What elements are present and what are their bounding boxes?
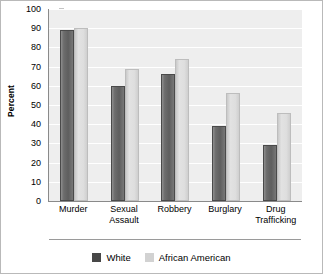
bar — [125, 69, 139, 201]
y-axis-label-text: Percent — [6, 85, 16, 117]
bar-group — [263, 9, 291, 201]
y-axis-tick-label: 80 — [31, 42, 41, 52]
bar-groups — [49, 9, 302, 201]
x-axis-tick-label: Sexual Assault — [99, 204, 149, 234]
bar-chart-figure: Percent 1009080706050403020100 MurderSex… — [0, 0, 323, 274]
legend-item[interactable]: White — [92, 252, 130, 263]
y-axis-tick-label: 60 — [31, 81, 41, 91]
y-axis-tick-label: 50 — [31, 100, 41, 110]
bar-group — [60, 9, 88, 201]
legend-label: White — [106, 252, 130, 263]
bar — [226, 93, 240, 201]
x-axis-tick-labels: MurderSexual AssaultRobberyBurglaryDrug … — [48, 204, 301, 234]
x-axis-tick-label: Drug Trafficking — [251, 204, 301, 234]
bar — [60, 30, 74, 201]
bar — [175, 59, 189, 201]
y-axis-tick-label: 70 — [31, 62, 41, 72]
legend-swatch-icon — [145, 253, 154, 262]
legend-swatch-icon — [92, 253, 101, 262]
legend-label: African American — [159, 252, 231, 263]
y-axis-tick-label: 40 — [31, 119, 41, 129]
y-axis-tick-label: 20 — [31, 158, 41, 168]
legend-item[interactable]: African American — [145, 252, 231, 263]
bar-group — [161, 9, 189, 201]
x-axis-tick-label: Murder — [48, 204, 98, 234]
y-axis-tick-label: 100 — [26, 4, 41, 14]
bar-group — [212, 9, 240, 201]
x-axis-tick-label: Robbery — [149, 204, 199, 234]
y-axis-tick-label: 30 — [31, 138, 41, 148]
y-axis-tick-label: 10 — [31, 177, 41, 187]
y-axis-tick-label: 90 — [31, 23, 41, 33]
bar — [212, 126, 226, 201]
x-axis-tick-label: Burglary — [200, 204, 250, 234]
bar — [111, 86, 125, 201]
bar — [74, 28, 88, 201]
plot-area — [48, 9, 302, 202]
chart-legend: WhiteAfrican American — [1, 247, 322, 267]
legend-divider — [49, 239, 301, 240]
bar — [161, 74, 175, 201]
y-axis-tick-labels: 1009080706050403020100 — [17, 9, 43, 201]
y-axis-tick-label: 0 — [36, 196, 41, 206]
plot-region: Percent 1009080706050403020100 MurderSex… — [1, 1, 322, 233]
bar — [263, 145, 277, 201]
bar — [277, 113, 291, 201]
bar-group — [111, 9, 139, 201]
